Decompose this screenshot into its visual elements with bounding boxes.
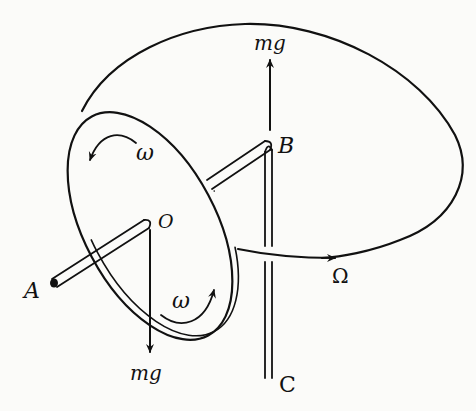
- label-point-b: B: [277, 133, 294, 158]
- spin-arrow-top: [90, 135, 136, 160]
- spinning-disk: [34, 82, 273, 367]
- precession-arrow: [238, 249, 335, 258]
- label-precession: Ω: [332, 264, 349, 288]
- support-post-bc: [265, 146, 272, 378]
- label-force-down: mg: [130, 361, 162, 385]
- axle-end-cap: [50, 279, 58, 288]
- diagram-canvas: A O B C mg mg ω ω Ω: [0, 0, 476, 411]
- axle-ao: [50, 220, 150, 288]
- axle-ob: [207, 141, 271, 189]
- label-spin-top: ω: [136, 140, 154, 165]
- label-point-a: A: [22, 278, 40, 303]
- label-spin-bottom: ω: [172, 288, 190, 313]
- gyroscope-diagram: A O B C mg mg ω ω Ω: [0, 0, 476, 411]
- label-point-c: C: [279, 372, 296, 397]
- label-point-o: O: [158, 210, 174, 232]
- label-force-up: mg: [254, 31, 286, 55]
